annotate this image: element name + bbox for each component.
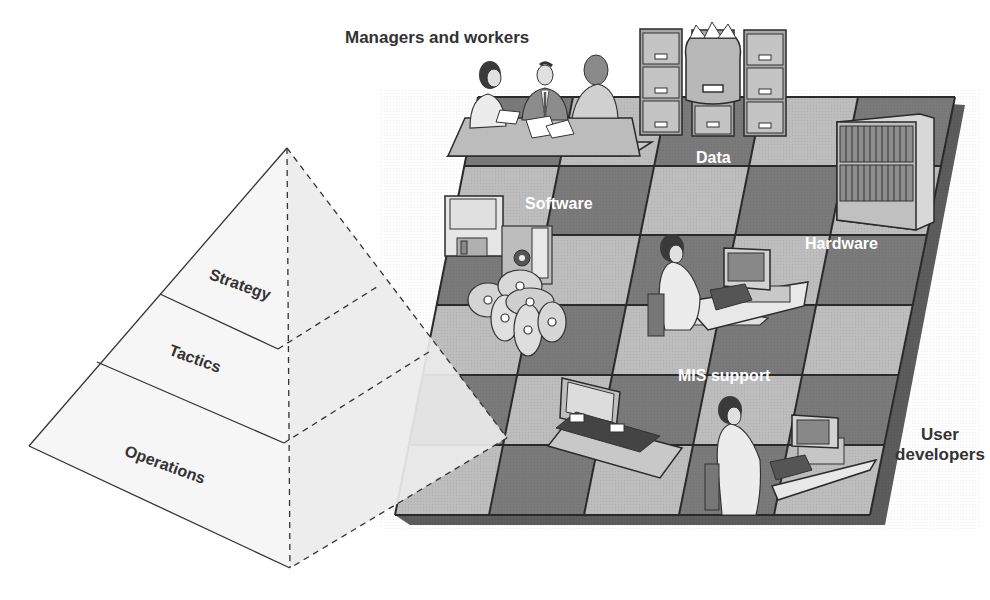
floppy-disk xyxy=(445,196,503,256)
label-managers-and-workers: Managers and workers xyxy=(345,28,529,47)
label-user-developers-line1: User xyxy=(921,425,959,444)
diagram-canvas: Strategy Tactics Operations Managers and… xyxy=(0,0,990,600)
filing-cabinet-center-open xyxy=(686,22,741,136)
filing-cabinet-left xyxy=(640,29,682,135)
label-user-developers-line2: developers xyxy=(895,445,985,464)
pyramid-front-face xyxy=(29,148,290,568)
label-hardware: Hardware xyxy=(805,235,878,252)
person-right xyxy=(572,55,618,118)
filing-cabinets-illustration xyxy=(640,22,786,136)
label-software: Software xyxy=(525,195,593,212)
label-mis-support: MIS support xyxy=(678,367,771,384)
label-data: Data xyxy=(696,149,731,166)
filing-cabinet-right xyxy=(744,30,786,136)
server-cabinet-illustration xyxy=(837,114,934,230)
